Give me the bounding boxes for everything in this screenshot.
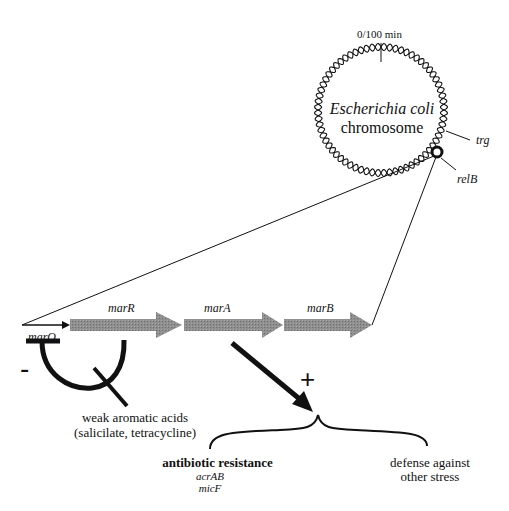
activation-arrow — [232, 343, 302, 401]
relB-marker — [432, 147, 442, 157]
activation-sign: + — [300, 366, 315, 392]
gene-marR-label: marR — [108, 301, 135, 316]
gene-micF-label: micF — [180, 482, 240, 494]
outcome-defense-line2: other stress — [385, 469, 475, 485]
marker-trg-label: trg — [476, 133, 490, 148]
chromosome-title: chromosome — [321, 119, 443, 137]
marker-relB-label: relB — [457, 172, 477, 187]
inducer-label-line1: weak aromatic acids — [60, 410, 210, 426]
repression-sign: - — [20, 355, 29, 383]
gene-marA-arrow — [184, 312, 283, 338]
outcome-brace — [210, 415, 427, 449]
gene-marA-label: marA — [204, 301, 231, 316]
origin-label: 0/100 min — [357, 28, 402, 40]
inducer-label-line2: (salicilate, tetracycline) — [60, 425, 210, 441]
repressor-loop — [42, 340, 124, 388]
promoter-arrowhead — [62, 321, 70, 329]
outcome-antibiotic-resistance: antibiotic resistance — [150, 455, 285, 471]
relB-tick — [441, 158, 456, 170]
gene-marB-label: marB — [307, 301, 334, 316]
gene-acrAB-label: acrAB — [180, 470, 240, 482]
trg-tick — [446, 131, 470, 140]
zoom-line-left — [22, 156, 434, 325]
promoter-marO-label: marO — [28, 330, 56, 345]
chromosome-title-species: Escherichia coli — [321, 100, 443, 118]
zoom-line-right — [372, 157, 436, 325]
